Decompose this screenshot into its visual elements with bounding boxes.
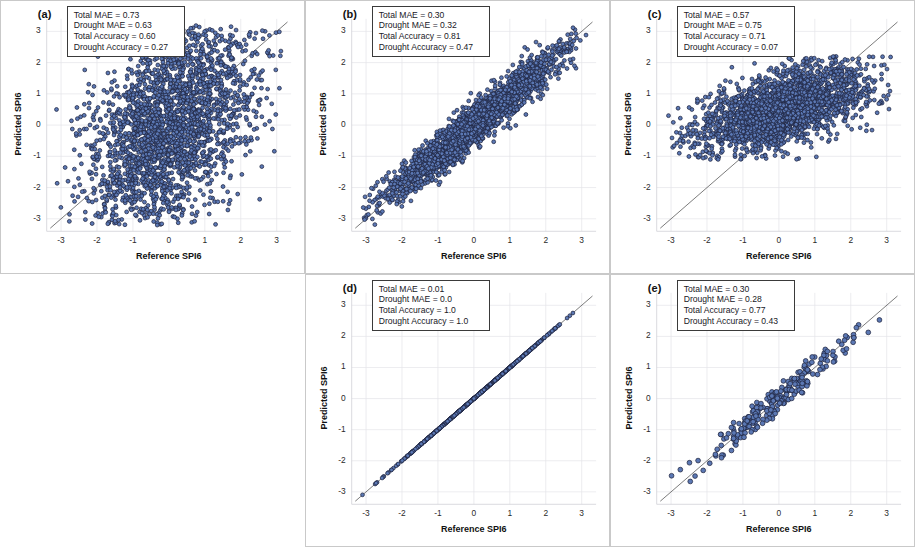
stat-drought-accuracy: Drought Accuracy = 0.27 <box>74 42 178 53</box>
x-axis-title: Reference SPI6 <box>657 524 901 534</box>
stat-total-accuracy: Total Accuracy = 0.77 <box>684 305 788 316</box>
stat-drought-mae: Drought MAE = 0.63 <box>74 20 178 31</box>
x-tick-label: -3 <box>659 508 683 518</box>
y-axis-title: Predicted SPI6 <box>14 18 24 230</box>
empty-cell-bottom-left <box>0 274 305 547</box>
stat-drought-accuracy: Drought Accuracy = 1.0 <box>379 316 483 327</box>
x-tick-label: -2 <box>85 235 109 245</box>
x-tick-label: 1 <box>193 235 217 245</box>
x-tick-label: 2 <box>534 235 558 245</box>
stat-drought-mae: Drought MAE = 0.0 <box>379 294 483 305</box>
x-tick-label: 0 <box>462 235 486 245</box>
x-tick-label: 1 <box>498 508 522 518</box>
panel-a: (a) Total MAE = 0.73 Drought MAE = 0.63 … <box>0 0 305 274</box>
x-tick-label: 2 <box>839 235 863 245</box>
x-tick-label: -3 <box>659 235 683 245</box>
x-tick-label: -3 <box>49 235 73 245</box>
x-tick-label: 3 <box>570 235 594 245</box>
stat-total-mae: Total MAE = 0.01 <box>379 284 483 295</box>
stat-total-mae: Total MAE = 0.73 <box>74 10 178 21</box>
scatter-figure: (a) Total MAE = 0.73 Drought MAE = 0.63 … <box>0 0 915 547</box>
panel-b-inner: (b) Total MAE = 0.30 Drought MAE = 0.32 … <box>306 1 609 273</box>
y-axis-title: Predicted SPI6 <box>319 18 329 230</box>
x-tick-label: -1 <box>426 508 450 518</box>
stat-total-accuracy: Total Accuracy = 0.71 <box>684 31 788 42</box>
stat-drought-mae: Drought MAE = 0.75 <box>684 20 788 31</box>
stat-total-accuracy: Total Accuracy = 0.81 <box>379 31 483 42</box>
panel-c-tag: (c) <box>648 8 662 20</box>
panel-b-stats-box: Total MAE = 0.30 Drought MAE = 0.32 Tota… <box>372 6 490 57</box>
stat-drought-accuracy: Drought Accuracy = 0.43 <box>684 316 788 327</box>
x-tick-label: 3 <box>875 235 899 245</box>
x-tick-label: -2 <box>390 508 414 518</box>
x-tick-label: 2 <box>534 508 558 518</box>
stat-drought-accuracy: Drought Accuracy = 0.47 <box>379 42 483 53</box>
stat-total-accuracy: Total Accuracy = 1.0 <box>379 305 483 316</box>
scatter-points <box>361 311 575 497</box>
x-tick-label: 0 <box>462 508 486 518</box>
panel-e-stats-box: Total MAE = 0.30 Drought MAE = 0.28 Tota… <box>677 280 795 331</box>
x-tick-label: -2 <box>695 508 719 518</box>
x-tick-label: 1 <box>498 235 522 245</box>
y-axis-title: Predicted SPI6 <box>319 292 329 503</box>
stat-drought-mae: Drought MAE = 0.28 <box>684 294 788 305</box>
x-tick-label: -1 <box>426 235 450 245</box>
stat-drought-accuracy: Drought Accuracy = 0.07 <box>684 42 788 53</box>
x-tick-label: 1 <box>803 508 827 518</box>
panel-c: (c) Total MAE = 0.57 Drought MAE = 0.75 … <box>610 0 915 274</box>
panel-a-tag: (a) <box>38 8 52 20</box>
x-tick-label: -1 <box>121 235 145 245</box>
stat-total-mae: Total MAE = 0.30 <box>684 284 788 295</box>
stat-total-mae: Total MAE = 0.57 <box>684 10 788 21</box>
panel-b-tag: (b) <box>343 8 357 20</box>
panel-d-inner: (d) Total MAE = 0.01 Drought MAE = 0.0 T… <box>306 275 609 546</box>
x-tick-label: -1 <box>731 508 755 518</box>
x-tick-label: 3 <box>570 508 594 518</box>
panel-b: (b) Total MAE = 0.30 Drought MAE = 0.32 … <box>305 0 610 274</box>
x-tick-label: 0 <box>157 235 181 245</box>
stat-drought-mae: Drought MAE = 0.32 <box>379 20 483 31</box>
panel-c-stats-box: Total MAE = 0.57 Drought MAE = 0.75 Tota… <box>677 6 795 57</box>
x-tick-label: -3 <box>354 508 378 518</box>
panel-d-stats-box: Total MAE = 0.01 Drought MAE = 0.0 Total… <box>372 280 490 331</box>
panel-a-stats-box: Total MAE = 0.73 Drought MAE = 0.63 Tota… <box>67 6 185 57</box>
panel-d: (d) Total MAE = 0.01 Drought MAE = 0.0 T… <box>305 274 610 547</box>
x-tick-label: 2 <box>229 235 253 245</box>
panel-d-tag: (d) <box>343 282 357 294</box>
x-tick-label: -3 <box>354 235 378 245</box>
panel-c-inner: (c) Total MAE = 0.57 Drought MAE = 0.75 … <box>611 1 914 273</box>
x-axis-title: Reference SPI6 <box>47 251 291 261</box>
stat-total-mae: Total MAE = 0.30 <box>379 10 483 21</box>
x-tick-label: 3 <box>265 235 289 245</box>
panel-grid: (a) Total MAE = 0.73 Drought MAE = 0.63 … <box>0 0 915 547</box>
x-axis-title: Reference SPI6 <box>352 251 596 261</box>
y-axis-title: Predicted SPI6 <box>624 18 634 230</box>
panel-a-inner: (a) Total MAE = 0.73 Drought MAE = 0.63 … <box>1 1 304 273</box>
scatter-points <box>667 55 893 162</box>
y-axis-title: Predicted SPI6 <box>624 292 634 503</box>
x-tick-label: -2 <box>695 235 719 245</box>
scatter-points <box>669 318 882 484</box>
panel-e: (e) Total MAE = 0.30 Drought MAE = 0.28 … <box>610 274 915 547</box>
stat-total-accuracy: Total Accuracy = 0.60 <box>74 31 178 42</box>
panel-e-tag: (e) <box>648 282 662 294</box>
x-tick-label: -2 <box>390 235 414 245</box>
x-axis-title: Reference SPI6 <box>352 524 596 534</box>
x-tick-label: 0 <box>767 235 791 245</box>
x-tick-label: 3 <box>875 508 899 518</box>
x-tick-label: 1 <box>803 235 827 245</box>
x-tick-label: 2 <box>839 508 863 518</box>
x-tick-label: 0 <box>767 508 791 518</box>
panel-e-inner: (e) Total MAE = 0.30 Drought MAE = 0.28 … <box>611 275 914 546</box>
x-tick-label: -1 <box>731 235 755 245</box>
x-axis-title: Reference SPI6 <box>657 251 901 261</box>
